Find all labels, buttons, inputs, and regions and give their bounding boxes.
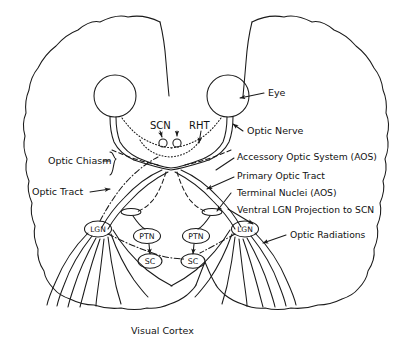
optic-radiation-left-1 bbox=[47, 233, 88, 305]
label-optic-nerve: Optic Nerve bbox=[247, 125, 304, 136]
label-ventral-lgn-projection: Ventral LGN Projection to SCN bbox=[237, 204, 374, 215]
label-rht: RHT bbox=[189, 120, 210, 131]
tn-ptn-connector-left bbox=[133, 216, 145, 229]
leader-aos bbox=[216, 158, 234, 170]
optic-nerve-left-b bbox=[116, 117, 138, 158]
node-label-sc-left: SC bbox=[145, 257, 156, 266]
primary-optic-tract-left-2 bbox=[108, 172, 168, 229]
label-primary-optic-tract: Primary Optic Tract bbox=[237, 170, 325, 181]
node-label-lgn-left: LGN bbox=[90, 225, 106, 234]
optic-radiation-left-6 bbox=[108, 237, 121, 304]
leader-optic-tract bbox=[90, 189, 110, 192]
figure-canvas: Eye Optic Nerve SCN RHT Optic Chiasm Opt… bbox=[0, 0, 411, 346]
label-terminal-nuclei: Terminal Nuclei (AOS) bbox=[236, 187, 337, 198]
node-label-lgn-right: LGN bbox=[237, 225, 253, 234]
tn-ptn-connector-right bbox=[198, 216, 210, 229]
brain-visual-pathway-diagram: Eye Optic Nerve SCN RHT Optic Chiasm Opt… bbox=[0, 0, 411, 346]
terminal-nucleus-right bbox=[202, 208, 222, 215]
leader-optic-radiations bbox=[263, 235, 286, 243]
node-label-sc-right: SC bbox=[188, 257, 199, 266]
aos-left bbox=[136, 172, 166, 212]
label-eye: Eye bbox=[268, 87, 286, 98]
ptn-sc-connector-right bbox=[193, 244, 194, 254]
node-label-ptn-left: PTN bbox=[139, 232, 154, 241]
optic-radiation-right-3 bbox=[247, 238, 275, 307]
optic-radiation-right-5 bbox=[239, 239, 247, 306]
terminal-nucleus-left bbox=[121, 208, 141, 215]
optic-radiation-right-2 bbox=[251, 236, 286, 306]
optic-radiation-left-3 bbox=[68, 238, 96, 307]
label-optic-tract: Optic Tract bbox=[32, 186, 83, 197]
optic-radiation-right-1 bbox=[255, 233, 296, 305]
ptn-sc-connector-left bbox=[149, 244, 150, 254]
label-scn: SCN bbox=[150, 120, 171, 131]
label-visual-cortex: Visual Cortex bbox=[131, 325, 194, 336]
label-optic-chiasm: Optic Chiasm bbox=[48, 155, 111, 166]
label-accessory-optic-system: Accessory Optic System (AOS) bbox=[237, 151, 377, 162]
scn-leader-left bbox=[160, 131, 162, 137]
label-optic-radiations: Optic Radiations bbox=[290, 229, 366, 240]
leader-primary-optic-tract bbox=[207, 177, 234, 189]
scn-nucleus-left bbox=[159, 139, 167, 147]
left-eye bbox=[94, 75, 136, 117]
leader-optic-nerve bbox=[233, 124, 243, 131]
midline-fissure-anterior-left bbox=[160, 22, 169, 96]
rht-hypothalamic-border bbox=[140, 140, 200, 157]
node-label-ptn-right: PTN bbox=[188, 232, 203, 241]
aos-right bbox=[177, 172, 207, 212]
optic-radiation-left-5 bbox=[96, 239, 104, 306]
ventral-lgn-to-scn-right bbox=[200, 234, 235, 253]
midline-fissure-anterior-right bbox=[243, 22, 252, 96]
scn-nucleus-right bbox=[173, 139, 181, 147]
rht-leader bbox=[199, 131, 201, 143]
